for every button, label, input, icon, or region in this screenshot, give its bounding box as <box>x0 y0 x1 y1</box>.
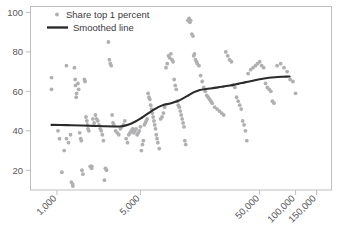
scatter-point <box>210 101 214 105</box>
scatter-point <box>245 139 249 143</box>
scatter-point <box>137 129 141 133</box>
scatter-point <box>77 87 81 91</box>
scatter-point <box>264 82 268 86</box>
scatter-point <box>69 133 73 137</box>
scatter-point <box>291 80 295 84</box>
scatter-point <box>83 80 87 84</box>
scatter-point <box>62 149 66 153</box>
scatter-point <box>279 62 283 66</box>
scatter-point <box>241 119 245 123</box>
scatter-point <box>91 117 95 121</box>
scatter-point <box>102 139 106 143</box>
scatter-point <box>197 64 201 68</box>
scatter-chart: 20406080100 1,0005,00050,000100,000150,0… <box>0 0 346 229</box>
scatter-point <box>145 117 149 121</box>
scatter-point <box>156 141 160 145</box>
scatter-point <box>100 133 104 137</box>
scatter-point <box>99 129 103 133</box>
scatter-point <box>56 129 60 133</box>
scatter-point <box>182 125 186 129</box>
scatter-point <box>50 87 54 91</box>
scatter-point <box>269 89 273 93</box>
y-tick-label: 40 <box>12 125 23 136</box>
scatter-point <box>233 86 237 90</box>
scatter-point <box>236 99 240 103</box>
scatter-point <box>141 139 145 143</box>
scatter-point <box>179 113 183 117</box>
y-tick-label: 100 <box>7 7 23 18</box>
scatter-point <box>238 103 242 107</box>
scatter-point <box>200 80 204 84</box>
scatter-point <box>193 52 197 56</box>
scatter-point <box>222 113 226 117</box>
scatter-point <box>148 97 152 101</box>
scatter-point <box>110 113 114 117</box>
scatter-point <box>244 129 248 133</box>
scatter-point <box>138 125 142 129</box>
scatter-point <box>154 127 158 131</box>
scatter-point <box>65 64 69 68</box>
scatter-point <box>199 74 203 78</box>
scatter-point <box>230 60 234 64</box>
scatter-point <box>73 66 77 70</box>
scatter-point <box>80 168 84 172</box>
scatter-point <box>105 168 109 172</box>
scatter-point <box>75 91 79 95</box>
scatter-point <box>239 107 243 111</box>
scatter-point <box>146 91 150 95</box>
chart-canvas: 20406080100 1,0005,00050,000100,000150,0… <box>0 0 346 229</box>
scatter-point <box>139 149 143 153</box>
y-tick-label: 20 <box>12 165 23 176</box>
scatter-point <box>155 137 159 141</box>
scatter-point <box>162 111 166 115</box>
scatter-point <box>58 137 62 141</box>
scatter-point <box>96 119 100 123</box>
scatter-point <box>262 66 266 70</box>
scatter-point <box>157 147 161 151</box>
scatter-point <box>50 76 54 80</box>
scatter-point <box>134 127 138 131</box>
scatter-point <box>174 87 178 91</box>
scatter-point <box>169 52 173 56</box>
scatter-point <box>87 129 91 133</box>
scatter-point <box>107 58 111 62</box>
scatter-point <box>275 64 279 68</box>
legend-marker-scatter-icon <box>55 13 59 17</box>
scatter-point <box>180 117 184 121</box>
scatter-point <box>76 82 80 86</box>
scatter-point <box>151 115 155 119</box>
scatter-point <box>181 121 185 125</box>
scatter-point <box>90 164 94 168</box>
scatter-point <box>85 119 89 123</box>
scatter-point <box>165 62 169 66</box>
scatter-point <box>258 60 262 64</box>
scatter-point <box>60 170 64 174</box>
scatter-point <box>124 137 128 141</box>
scatter-point <box>84 115 88 119</box>
scatter-point <box>149 103 153 107</box>
scatter-point <box>171 60 175 64</box>
scatter-point <box>107 40 111 44</box>
scatter-point <box>282 66 286 70</box>
scatter-point <box>272 101 276 105</box>
scatter-point <box>103 178 107 182</box>
scatter-point <box>81 172 85 176</box>
scatter-point <box>173 84 177 88</box>
scatter-point <box>235 95 239 99</box>
scatter-point <box>71 184 75 188</box>
y-tick-label: 60 <box>12 86 23 97</box>
scatter-point <box>92 121 96 125</box>
scatter-point <box>177 105 181 109</box>
scatter-point <box>152 119 156 123</box>
scatter-point <box>65 137 69 141</box>
scatter-point <box>94 113 98 117</box>
scatter-point <box>67 141 71 145</box>
scatter-point <box>285 70 289 74</box>
scatter-point <box>153 123 157 127</box>
scatter-point <box>189 18 193 22</box>
scatter-point <box>154 133 158 137</box>
scatter-point <box>117 133 121 137</box>
scatter-point <box>183 139 187 143</box>
scatter-point <box>242 123 246 127</box>
scatter-point <box>224 50 228 54</box>
